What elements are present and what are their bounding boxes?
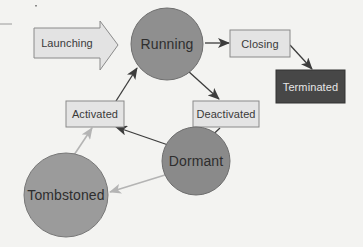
dormant-state-circle <box>162 127 230 195</box>
edge-closing-terminated <box>290 45 312 69</box>
activated-state-box <box>66 101 124 127</box>
edge-dormant-activated <box>116 127 171 146</box>
tombstoned-state-circle <box>24 153 108 237</box>
running-state-circle <box>131 8 203 80</box>
terminated-state-box <box>276 70 345 103</box>
closing-state-box <box>230 30 290 57</box>
stray-mark <box>35 5 37 7</box>
deactivated-state-box <box>193 101 259 127</box>
edge-activated-running <box>116 68 137 101</box>
edge-dormant-tombstoned <box>110 175 165 192</box>
launching-block-arrow <box>34 21 118 70</box>
diagram-canvas <box>0 0 363 247</box>
lifecycle-diagram: Launching Running Closing Terminated Dea… <box>0 0 363 247</box>
edge-tombstoned-activated <box>74 128 92 155</box>
edge-running-deactivated <box>188 71 219 99</box>
